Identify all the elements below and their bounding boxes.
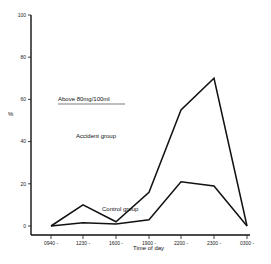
y-tick-label: 40 (20, 138, 26, 144)
y-axis-label: % (8, 111, 14, 117)
y-tick-label: 100 (18, 12, 27, 18)
x-tick-label: 0940 - (44, 240, 59, 246)
y-tick-label: 60 (20, 96, 26, 102)
y-tick-label: 20 (20, 181, 26, 187)
x-axis-label: Time of day (133, 245, 164, 251)
x-tick-label: 1230 - (76, 240, 91, 246)
control-group-label: Control group (102, 206, 139, 212)
x-tick-label: 0300 - (240, 240, 255, 246)
control-group-line (51, 182, 247, 226)
x-tick-label: 1600 - (109, 240, 124, 246)
line-chart: 020406080100 0940 -1230 -1600 -1900 -220… (0, 0, 271, 264)
y-ticks: 020406080100 (18, 12, 31, 229)
x-tick-label: 2300 - (207, 240, 222, 246)
accident-group-label: Accident group (76, 133, 117, 139)
y-tick-label: 0 (23, 223, 26, 229)
y-tick-label: 80 (20, 54, 26, 60)
x-tick-label: 2200 - (174, 240, 189, 246)
threshold-annotation: Above 80mg/100ml (58, 96, 110, 102)
